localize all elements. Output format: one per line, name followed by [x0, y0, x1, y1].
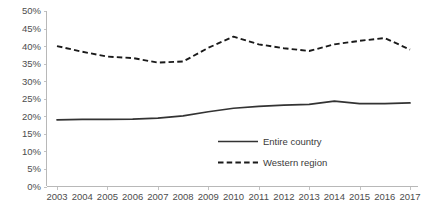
y-axis-tick-label: 20% [22, 111, 42, 122]
legend-label-entire-country: Entire country [263, 136, 322, 147]
y-axis-tick-label: 10% [22, 146, 42, 157]
x-axis-tick-label: 2016 [374, 191, 395, 202]
y-axis-tick-label: 50% [22, 5, 42, 16]
x-axis-tick-label: 2005 [97, 191, 118, 202]
x-axis-tick-label: 2011 [248, 191, 268, 202]
y-axis-tick-label: 35% [22, 58, 42, 69]
x-axis-tick-label: 2012 [273, 191, 294, 202]
chart-legend: Entire country Western region [218, 136, 327, 168]
y-axis-tick-label: 40% [22, 41, 42, 52]
x-axis-tick-labels: 2003200420052006200720082009201020112012… [46, 191, 420, 202]
y-axis-tick-label: 5% [27, 163, 41, 174]
x-axis-tick-label: 2013 [299, 191, 320, 202]
x-axis-tick-label: 2017 [399, 191, 420, 202]
x-axis-tick-label: 2014 [324, 191, 345, 202]
line-chart: 0%5%10%15%20%25%30%35%40%45%50% 20032004… [0, 0, 427, 217]
y-axis-tick-label: 15% [22, 128, 42, 139]
y-axis-tick-label: 45% [22, 23, 42, 34]
x-axis-tick-label: 2006 [122, 191, 143, 202]
x-axis-tick-label: 2015 [349, 191, 370, 202]
x-axis-tick-label: 2007 [147, 191, 168, 202]
chart-canvas: 0%5%10%15%20%25%30%35%40%45%50% 20032004… [0, 0, 427, 217]
x-axis-tick-label: 2003 [46, 191, 67, 202]
x-axis-tick-label: 2004 [72, 191, 93, 202]
legend-label-western-region: Western region [263, 157, 327, 168]
y-axis-tick-label: 25% [22, 93, 42, 104]
series-line-western-region [57, 37, 410, 63]
y-axis-tick-labels: 0%5%10%15%20%25%30%35%40%45%50% [22, 5, 42, 192]
x-axis-tick-label: 2009 [198, 191, 219, 202]
x-axis-tick-label: 2008 [173, 191, 194, 202]
y-axis-tick-label: 0% [27, 181, 41, 192]
series-line-entire-country [57, 101, 410, 120]
x-axis-tick-label: 2010 [223, 191, 244, 202]
y-axis-tick-label: 30% [22, 76, 42, 87]
